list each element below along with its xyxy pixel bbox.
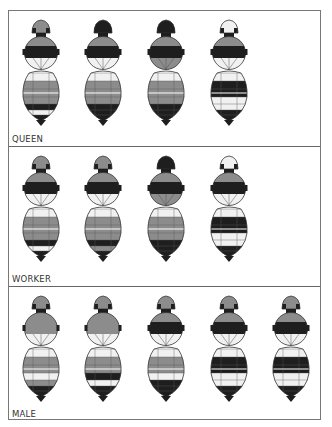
panel-label: MALE	[12, 409, 36, 419]
bee-pattern-male-4	[209, 293, 249, 403]
bee-pattern-worker-1	[21, 153, 61, 263]
panel-label: QUEEN	[12, 134, 43, 144]
bee-pattern-male-3	[146, 293, 186, 403]
figure-frame: QUEEN	[8, 10, 321, 420]
bee-pattern-worker-3	[146, 153, 186, 263]
bee-pattern-worker-2	[83, 153, 123, 263]
bee-icon	[271, 293, 311, 403]
bee-icon	[83, 17, 123, 127]
panel-worker: WORKER	[9, 147, 320, 287]
panel-label: WORKER	[12, 274, 51, 284]
bee-pattern-male-2	[83, 293, 123, 403]
bee-icon	[146, 17, 186, 127]
panel-male: MALE	[9, 287, 320, 421]
panel-queen: QUEEN	[9, 11, 320, 147]
bee-icon	[21, 17, 61, 127]
bee-icon	[21, 153, 61, 263]
bee-icon	[21, 293, 61, 403]
bee-pattern-male-1	[21, 293, 61, 403]
bee-pattern-queen-1	[21, 17, 61, 127]
bee-icon	[83, 293, 123, 403]
bee-icon	[146, 153, 186, 263]
bee-pattern-male-5	[271, 293, 311, 403]
bee-pattern-queen-4	[209, 17, 249, 127]
bee-pattern-queen-3	[146, 17, 186, 127]
bee-icon	[209, 17, 249, 127]
bee-icon	[209, 153, 249, 263]
bee-icon	[83, 153, 123, 263]
bee-pattern-queen-2	[83, 17, 123, 127]
bee-icon	[209, 293, 249, 403]
bee-pattern-worker-4	[209, 153, 249, 263]
bee-icon	[146, 293, 186, 403]
